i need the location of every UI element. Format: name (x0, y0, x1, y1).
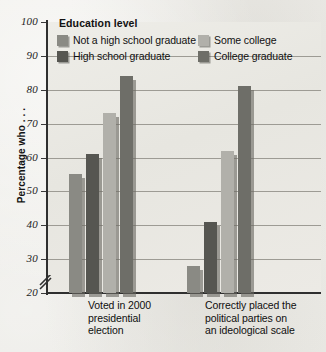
legend: Education level Not a high school gradua… (57, 17, 319, 64)
legend-item: College graduate (198, 50, 316, 62)
bar (204, 222, 217, 293)
bar-body (103, 113, 116, 293)
legend-swatch (57, 35, 68, 46)
bar (221, 151, 234, 293)
y-axis-tick-label: 90 (27, 49, 38, 61)
y-axis-tick-label: 60 (27, 151, 38, 163)
bar (86, 154, 99, 293)
bar-body (187, 266, 200, 293)
bar-body (238, 86, 251, 293)
legend-title: Education level (59, 17, 319, 29)
y-axis-tick-label: 30 (27, 252, 38, 264)
bar (187, 266, 200, 293)
bar-body (221, 151, 234, 293)
y-axis-title: Percentage who . . . (16, 101, 27, 211)
bar-body (204, 222, 217, 293)
bar (103, 113, 116, 293)
legend-swatch (198, 35, 209, 46)
x-category-label-line: an ideological scale (205, 324, 296, 337)
bar (238, 86, 251, 293)
legend-label: Not a high school graduate (73, 34, 196, 46)
legend-entries: Not a high school graduateSome collegeHi… (57, 32, 319, 64)
legend-item: High school graduate (57, 50, 198, 62)
x-category-label-line: Correctly placed the (205, 299, 296, 312)
x-category-label-line: presidential (88, 312, 151, 325)
bar-body (86, 154, 99, 293)
legend-label: Some college (214, 34, 276, 46)
y-axis-tick-label: 70 (27, 117, 38, 129)
x-category-label-line: political parties on (205, 312, 296, 325)
legend-label: High school graduate (73, 50, 170, 62)
bar-body (120, 76, 133, 293)
y-axis-tick-label: 100 (21, 15, 38, 27)
legend-swatch (198, 51, 209, 62)
y-axis-tick-label: 40 (27, 218, 38, 230)
x-category-label-line: Voted in 2000 (88, 299, 151, 312)
x-category-label-line: election (88, 324, 151, 337)
y-axis-tick-label: 50 (27, 184, 38, 196)
bar-body (69, 174, 82, 293)
legend-swatch (57, 51, 68, 62)
legend-item: Not a high school graduate (57, 34, 198, 46)
y-axis-tick-label: 80 (27, 83, 38, 95)
bar (120, 76, 133, 293)
x-category-label-0: Voted in 2000presidentialelection (88, 299, 151, 337)
legend-label: College graduate (214, 50, 292, 62)
bar (69, 174, 82, 293)
x-category-label-1: Correctly placed thepolitical parties on… (205, 299, 296, 337)
legend-item: Some college (198, 34, 316, 46)
